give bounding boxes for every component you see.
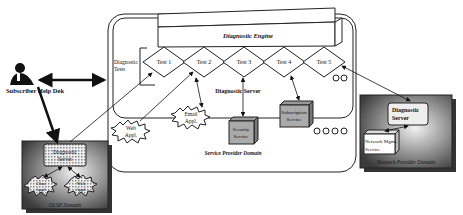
subscription-service-line1: Subscription xyxy=(281,110,307,115)
diagnostic-server-label: Diagnostic Server xyxy=(215,88,261,94)
olsp-domain-label: OLSP Domain xyxy=(49,202,81,208)
web-appl-line1: Web xyxy=(126,125,136,131)
email-appl-line1: Email xyxy=(184,111,198,117)
test-3-label: Test 3 xyxy=(237,59,251,65)
security-service-line2: Service xyxy=(234,134,250,139)
web-appl-line2: Appl. xyxy=(125,132,138,138)
diagnostic-engine xyxy=(158,8,342,47)
olsp-server-line1: Diagnostic xyxy=(53,149,77,155)
chat-appl-line1: Chat xyxy=(36,181,46,186)
network-server-line1: Diagnostic xyxy=(392,107,419,113)
network-mgmt-line1: Network Mgmt. xyxy=(365,139,397,144)
network-provider-domain-label: Network Provider Domain xyxy=(376,159,436,165)
subscription-service-line2: Service xyxy=(287,117,303,122)
subscriber-person-icon xyxy=(10,63,34,85)
subscriber-label: Subscriber Help Dek xyxy=(6,87,64,94)
network-server-line2: Server xyxy=(392,115,409,121)
diagnostic-tests-label-1: Diagnostic xyxy=(114,59,138,65)
chat-appl-line2: Appl. xyxy=(35,187,46,192)
security-service-line1: Security xyxy=(233,127,250,132)
olsp-server-line2: Server xyxy=(58,156,73,162)
test-4-label: Test 4 xyxy=(277,59,291,65)
olsp-web-appl-line2: Appl. xyxy=(75,187,86,192)
test-2-label: Test 2 xyxy=(197,59,211,65)
email-appl-line2: Appl. xyxy=(185,118,198,124)
olsp-web-appl-line1: Web xyxy=(76,181,86,186)
test-1-label: Test 1 xyxy=(157,59,171,65)
service-provider-domain-label: Service Provider Domain xyxy=(204,150,261,156)
test-5-label: Test 5 xyxy=(317,59,331,65)
architecture-diagram: Subscriber Help Dek Diagnostic Engine Di… xyxy=(0,0,463,215)
diagnostic-engine-label: Diagnostic Engine xyxy=(222,32,273,39)
network-mgmt-line2: Service xyxy=(365,147,381,152)
diagnostic-tests-label-2: Tests xyxy=(114,66,125,72)
